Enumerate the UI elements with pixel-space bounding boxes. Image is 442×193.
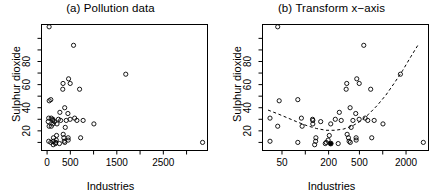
svg-text:60: 60: [242, 79, 253, 91]
panel-a-data-points: [46, 25, 205, 147]
svg-text:40: 40: [242, 102, 253, 114]
panel-b-highlight-point: [328, 141, 333, 146]
panel-a-y-ticks: 20406080: [21, 38, 42, 142]
svg-text:80: 80: [242, 55, 253, 67]
panel-a-plot-area: 050015002500 20406080: [0, 0, 221, 193]
panel-a-x-ticks: 050015002500: [44, 151, 186, 168]
svg-text:20: 20: [242, 125, 253, 137]
svg-text:80: 80: [21, 55, 32, 67]
svg-text:2000: 2000: [395, 157, 418, 168]
svg-text:60: 60: [21, 79, 32, 91]
panel-b-plot-area: 502005002000 20406080: [221, 0, 442, 193]
panel-b-y-axis-label: Sulphur dioxide: [231, 46, 243, 122]
svg-text:500: 500: [351, 157, 368, 168]
svg-text:0: 0: [44, 157, 50, 168]
panel-b-y-ticks: 20406080: [242, 38, 263, 142]
svg-text:40: 40: [21, 102, 32, 114]
svg-text:2500: 2500: [152, 157, 175, 168]
panel-b-data-points: [268, 25, 426, 147]
panel-a-axes: [42, 25, 208, 151]
svg-text:200: 200: [320, 157, 337, 168]
svg-text:1500: 1500: [106, 157, 129, 168]
svg-text:20: 20: [21, 125, 32, 137]
pollution-figure: (a) Pollution data Sulphur dioxide Indus…: [0, 0, 442, 193]
panel-b-x-ticks: 502005002000: [276, 151, 417, 168]
panel-b-transform-x-axis: (b) Transform x−axis Industries 50200500…: [221, 0, 442, 193]
svg-text:50: 50: [276, 157, 288, 168]
panel-b-trend-curve: [268, 44, 419, 130]
panel-a-pollution-data: (a) Pollution data Sulphur dioxide Indus…: [0, 0, 221, 193]
svg-text:500: 500: [62, 157, 79, 168]
